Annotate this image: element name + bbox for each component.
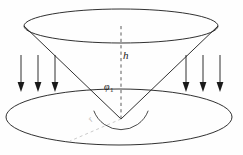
apex-angle-symbol: φ — [104, 81, 110, 92]
flux-arrow-down — [18, 55, 25, 92]
flux-arrow-group-left — [18, 55, 59, 92]
flux-arrow-group-right — [183, 55, 224, 92]
cone-left-slant-edge — [24, 26, 121, 119]
flux-arrow-down — [35, 55, 42, 92]
cone-diagram-figure: h φ1 r — [0, 0, 243, 155]
apex-angle-label: φ1 — [104, 82, 113, 94]
flux-arrow-down — [183, 55, 190, 92]
apex-angle-subscript: 1 — [110, 86, 114, 94]
flux-arrow-down — [52, 55, 59, 92]
height-label: h — [123, 50, 129, 61]
flux-arrow-down — [217, 55, 224, 92]
base-radius-dashed-line — [70, 119, 121, 141]
cone-diagram-canvas — [0, 0, 243, 155]
flux-arrow-down — [200, 55, 207, 92]
